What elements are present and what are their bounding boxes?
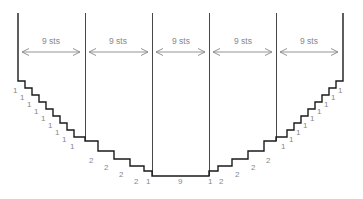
- bottom-label: 9: [178, 177, 183, 186]
- step-label: 1: [41, 114, 46, 123]
- neckline-shaping-diagram: 9 sts 9 sts 9 sts 9 sts 9 sts 1 1 1 1 1 …: [0, 0, 363, 199]
- step-label: 1: [331, 93, 336, 102]
- step-label: 2: [89, 156, 94, 165]
- left-step-labels: 1 1 1 1 1 1 1 1 1: [13, 86, 75, 151]
- step-label: 1: [303, 121, 308, 130]
- section-label-5: 9 sts: [300, 36, 318, 46]
- step-label: 1: [208, 177, 213, 186]
- step-label: 2: [266, 156, 271, 165]
- step-label: 1: [62, 135, 67, 144]
- step-label: 1: [289, 135, 294, 144]
- left-lower-step-labels: 2 2 2 2 1: [89, 156, 151, 186]
- step-label: 2: [251, 163, 256, 172]
- step-label: 2: [119, 170, 124, 179]
- step-label: 1: [13, 86, 18, 95]
- section-label-1: 9 sts: [42, 36, 60, 46]
- step-label: 2: [134, 177, 139, 186]
- step-label: 1: [296, 128, 301, 137]
- step-label: 1: [55, 128, 60, 137]
- section-label-4: 9 sts: [234, 36, 252, 46]
- step-label: 1: [310, 114, 315, 123]
- step-label: 1: [146, 177, 151, 186]
- step-label: 2: [235, 170, 240, 179]
- section-label-3: 9 sts: [172, 36, 190, 46]
- step-label: 1: [281, 142, 286, 151]
- right-step-labels: 1 1 1 1 1 1 1 1 1: [281, 86, 343, 151]
- step-label: 1: [20, 93, 25, 102]
- step-label: 1: [27, 100, 32, 109]
- step-label: 1: [34, 107, 39, 116]
- step-label: 1: [48, 121, 53, 130]
- step-label: 1: [338, 86, 343, 95]
- step-label: 1: [324, 100, 329, 109]
- section-label-2: 9 sts: [109, 36, 127, 46]
- step-label: 2: [104, 163, 109, 172]
- step-label: 2: [219, 177, 224, 186]
- step-label: 1: [317, 107, 322, 116]
- step-label: 1: [70, 142, 75, 151]
